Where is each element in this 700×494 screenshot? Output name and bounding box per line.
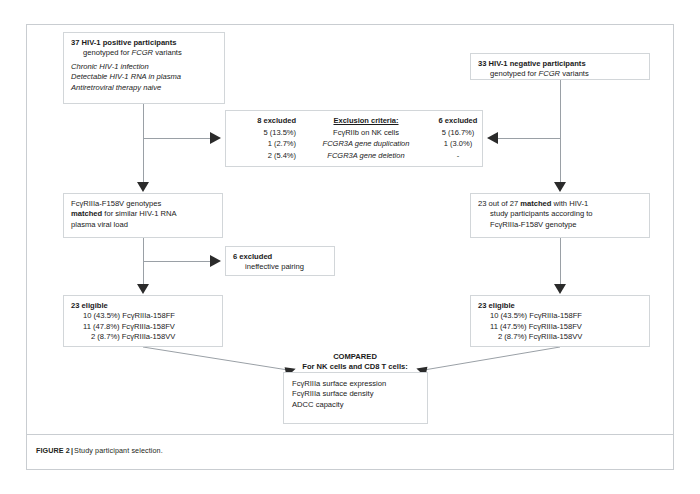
figure-label: FIGURE 2 — [36, 446, 70, 455]
eligible-left-item-1: 10 (43.5%) FcγRIIIa-158FF — [71, 311, 215, 321]
compared-title-line-1: COMPARED — [255, 352, 455, 362]
ineffective-header: 6 excluded — [233, 252, 327, 262]
eligible-right-item-1: 10 (43.5%) FcγRIIIa-158FF — [478, 311, 642, 321]
exclusion-row-1-left: 5 (13.5%) — [232, 127, 304, 139]
positive-cohort-gene: FCGR — [132, 48, 154, 57]
node-positive-cohort: 37 HIV-1 positive participants genotyped… — [63, 32, 225, 104]
exclusion-row-3-criterion: FCGR3A gene deletion — [306, 150, 426, 162]
node-compared-items: FcγRIIIa surface expression FcγRIIIa sur… — [283, 372, 428, 424]
matched-right-pre: 23 out of 27 — [478, 199, 520, 208]
positive-cohort-criterion-2: Detectable HIV-1 RNA in plasma — [71, 72, 217, 82]
compared-title-line-2: For NK cells and CD8 T cells: — [255, 362, 455, 372]
connector-positive-to-exclusion — [143, 138, 215, 139]
negative-cohort-gene: FCGR — [539, 69, 561, 78]
exclusion-row-2-criterion: FCGR3A gene duplication — [306, 138, 426, 150]
matched-left-line-2: matched for similar HIV-1 RNA — [71, 209, 215, 219]
positive-cohort-criterion-1: Chronic HIV-1 infection — [71, 62, 217, 72]
negative-cohort-subtitle-pre: genotyped for — [490, 69, 539, 78]
positive-cohort-title: 37 HIV-1 positive participants — [71, 38, 217, 48]
exclusion-middle-header: Exclusion criteria: — [306, 115, 426, 127]
figure-caption-text: Study participant selection. — [74, 446, 163, 455]
exclusion-grid: 8 excluded Exclusion criteria: 6 exclude… — [232, 115, 476, 161]
eligible-right-item-2: 11 (47.5%) FcγRIIIa-158FV — [478, 322, 642, 332]
eligible-left-item-3: 2 (8.7%) FcγRIIIa-158VV — [71, 332, 215, 342]
exclusion-row-1-right: 5 (16.7%) — [428, 127, 488, 139]
node-eligible-left: 23 eligible 10 (43.5%) FcγRIIIa-158FF 11… — [63, 295, 223, 347]
positive-cohort-subtitle-pre: genotyped for — [83, 48, 132, 57]
matched-right-post: with HIV-1 — [551, 199, 588, 208]
connector-positive-stem — [143, 104, 144, 188]
compared-item-3: ADCC capacity — [292, 400, 419, 410]
exclusion-right-header: 6 excluded — [428, 115, 488, 127]
exclusion-row-2-left: 1 (2.7%) — [232, 138, 304, 150]
node-matched-left: FcγRIIIa-F158V genotypes matched for sim… — [63, 193, 223, 238]
node-ineffective-pairing: 6 excluded ineffective pairing — [225, 246, 335, 276]
exclusion-row-3-right: - — [428, 150, 488, 162]
figure-caption: FIGURE 2|Study participant selection. — [36, 446, 163, 455]
exclusion-left-header: 8 excluded — [232, 115, 304, 127]
matched-left-line-3: plasma viral load — [71, 220, 215, 230]
compared-item-2: FcγRIIIa surface density — [292, 389, 419, 399]
positive-cohort-subtitle: genotyped for FCGR variants — [71, 48, 217, 58]
eligible-right-item-3: 2 (8.7%) FcγRIIIa-158VV — [478, 332, 642, 342]
matched-right-line-1: 23 out of 27 matched with HIV-1 — [478, 199, 642, 209]
caption-divider — [26, 434, 674, 435]
figure-root: 37 HIV-1 positive participants genotyped… — [0, 0, 700, 494]
compared-title: COMPARED For NK cells and CD8 T cells: — [255, 352, 455, 371]
connector-matched-right-stem — [560, 238, 561, 290]
exclusion-row-3-left: 2 (5.4%) — [232, 150, 304, 162]
node-exclusion-criteria: 8 excluded Exclusion criteria: 6 exclude… — [225, 110, 483, 167]
negative-cohort-title: 33 HIV-1 negative participants — [478, 59, 642, 69]
positive-cohort-criterion-3: Antiretroviral therapy naive — [71, 83, 217, 93]
exclusion-row-1-criterion: FcγRIIb on NK cells — [306, 127, 426, 139]
matched-left-line-2-rest: for similar HIV-1 RNA — [102, 209, 176, 218]
eligible-right-header: 23 eligible — [478, 301, 642, 311]
matched-right-line-3: FcγRIIIa-F158V genotype — [478, 220, 642, 230]
node-negative-cohort: 33 HIV-1 negative participants genotyped… — [470, 53, 650, 80]
negative-cohort-subtitle: genotyped for FCGR variants — [478, 69, 642, 79]
ineffective-detail: ineffective pairing — [233, 262, 327, 272]
node-eligible-right: 23 eligible 10 (43.5%) FcγRIIIa-158FF 11… — [470, 295, 650, 347]
connector-negative-stem — [560, 80, 561, 188]
connector-matched-left-stem — [143, 238, 144, 290]
matched-right-line-2: study participants according to — [478, 209, 642, 219]
negative-cohort-subtitle-post: variants — [560, 69, 589, 78]
matched-left-line-1: FcγRIIIa-F158V genotypes — [71, 199, 215, 209]
eligible-left-header: 23 eligible — [71, 301, 215, 311]
compared-item-1: FcγRIIIa surface expression — [292, 379, 419, 389]
matched-right-bold: matched — [520, 199, 551, 208]
node-matched-right: 23 out of 27 matched with HIV-1 study pa… — [470, 193, 650, 238]
connector-negative-to-exclusion — [493, 138, 560, 139]
eligible-left-item-2: 11 (47.8%) FcγRIIIa-158FV — [71, 322, 215, 332]
connector-matched-to-ineffective — [143, 261, 215, 262]
positive-cohort-subtitle-post: variants — [153, 48, 182, 57]
matched-left-bold: matched — [71, 209, 102, 218]
exclusion-row-2-right: 1 (3.0%) — [428, 138, 488, 150]
